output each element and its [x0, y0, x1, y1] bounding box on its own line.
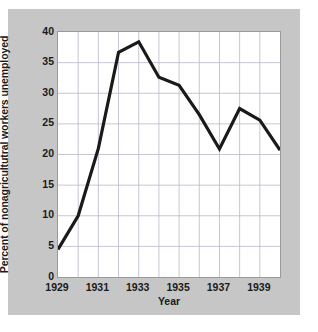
y-tick-label: 15: [28, 179, 54, 190]
y-tick-label: 40: [28, 26, 54, 37]
y-tick-label: 35: [28, 56, 54, 67]
y-tick-label: 30: [28, 87, 54, 98]
y-axis-title-text: Percent of nonagricultutral workers unem…: [0, 36, 10, 274]
figure: Percent of nonagricultutral workers unem…: [0, 0, 318, 332]
x-tick-label: 1935: [157, 281, 199, 293]
x-tick-label: 1933: [117, 281, 159, 293]
y-tick-label: 10: [28, 209, 54, 220]
y-axis-title: Percent of nonagricultutral workers unem…: [0, 31, 15, 278]
y-tick-label: 20: [28, 148, 54, 159]
unemployment-line-series: [58, 32, 280, 277]
y-tick-label: 25: [28, 117, 54, 128]
x-tick-label: 1939: [238, 281, 280, 293]
y-tick-label: 0: [28, 271, 54, 282]
x-tick-label: 1931: [76, 281, 118, 293]
plot-area: [57, 31, 281, 278]
x-tick-label: 1937: [197, 281, 239, 293]
x-tick-label: 1929: [36, 281, 78, 293]
x-axis-title: Year: [57, 295, 281, 307]
y-tick-label: 5: [28, 240, 54, 251]
